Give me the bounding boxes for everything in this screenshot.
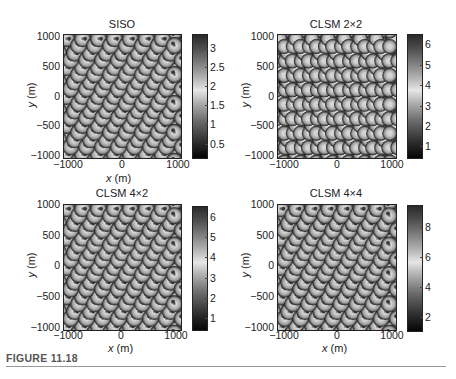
x-tick: 1000: [370, 159, 414, 170]
colorbar-tick: 4: [425, 282, 431, 293]
x-axis-label: x (m): [108, 342, 133, 354]
colorbar-tick: 1: [425, 141, 431, 152]
plot-title: CLSM 2×2: [277, 18, 395, 30]
y-tick: −500: [20, 291, 60, 302]
x-axis-label: x (m): [322, 342, 347, 354]
colorbar-tick: 4: [210, 252, 216, 263]
colorbar-tick: 1.5: [210, 100, 225, 111]
heatmap-plot: [63, 34, 182, 159]
heatmap-plot: [277, 34, 397, 159]
colorbar-tick: 2: [210, 81, 216, 92]
colorbar-tick: 6: [425, 39, 431, 50]
colorbar-tick: 1: [210, 313, 216, 324]
x-axis-label: x (m): [106, 172, 131, 184]
y-tick: −500: [234, 291, 274, 302]
colorbar-tick: 2.5: [210, 62, 225, 73]
plot-title: CLSM 4×2: [63, 187, 181, 199]
colorbar-tick: 2: [210, 293, 216, 304]
x-tick: 0: [315, 330, 359, 341]
y-tick: 500: [20, 61, 60, 72]
y-tick: 1000: [234, 199, 274, 210]
x-tick: 0: [99, 330, 143, 341]
colorbar-tick: 1: [210, 119, 216, 130]
colorbar: [407, 34, 423, 159]
colorbar-tick: 2: [425, 312, 431, 323]
colorbar: [407, 205, 423, 332]
x-tick: −1000: [262, 159, 306, 170]
x-tick: 0: [315, 159, 359, 170]
y-axis-label: y (m): [239, 82, 251, 107]
colorbar-tick: 8: [425, 222, 431, 233]
x-tick: 0: [100, 159, 144, 170]
colorbar-tick: 3: [210, 43, 216, 54]
plot-title: CLSM 4×4: [277, 187, 395, 199]
colorbar-tick: 2: [425, 121, 431, 132]
caption-divider: [6, 366, 446, 367]
colorbar-tick: 5: [425, 60, 431, 71]
y-tick: 1000: [234, 31, 274, 42]
colorbar-tick: 5: [210, 232, 216, 243]
colorbar: [192, 34, 208, 159]
y-axis-label: y (m): [25, 82, 37, 107]
colorbar-tick: 6: [210, 212, 216, 223]
x-tick: 1000: [156, 159, 200, 170]
y-tick: 500: [234, 61, 274, 72]
y-tick: 1000: [20, 31, 60, 42]
colorbar-tick: 6: [425, 252, 431, 263]
x-tick: −1000: [46, 330, 90, 341]
heatmap-plot: [277, 204, 397, 331]
y-axis-label: y (m): [239, 252, 251, 277]
x-tick: −1000: [262, 330, 306, 341]
colorbar-tick: 4: [425, 80, 431, 91]
y-tick: 1000: [20, 199, 60, 210]
colorbar-tick: 3: [425, 101, 431, 112]
y-tick: −500: [20, 120, 60, 131]
y-tick: 500: [234, 230, 274, 241]
plot-title: SISO: [63, 18, 181, 30]
x-tick: −1000: [46, 159, 90, 170]
y-tick: −500: [234, 120, 274, 131]
colorbar-tick: 0.5: [210, 139, 225, 150]
colorbar: [192, 206, 208, 331]
x-tick: 1000: [154, 330, 198, 341]
heatmap-plot: [63, 204, 182, 331]
y-axis-label: y (m): [25, 252, 37, 277]
figure-caption: FIGURE 11.18: [6, 352, 78, 364]
colorbar-tick: 3: [210, 273, 216, 284]
y-tick: 500: [20, 230, 60, 241]
